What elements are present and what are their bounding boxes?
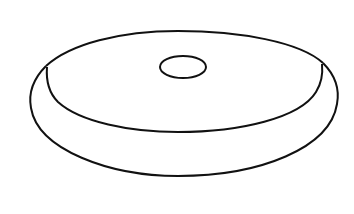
outer-rim xyxy=(30,63,338,176)
disc-illustration xyxy=(0,0,354,214)
center-hole xyxy=(160,56,206,78)
top-front-edge xyxy=(47,64,322,132)
top-back-edge xyxy=(46,31,323,66)
disc-drawing: Line drawing of a flat disc/washer shape… xyxy=(0,0,354,214)
